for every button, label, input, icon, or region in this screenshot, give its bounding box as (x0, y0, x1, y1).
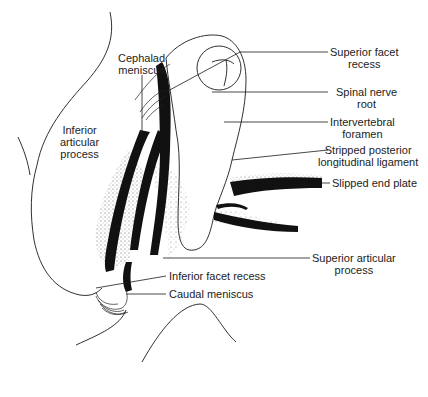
slipped-end-plate-bands (214, 177, 322, 232)
label-caudal-meniscus: Caudal meniscus (169, 288, 253, 300)
label-stripped-pll: Stripped posterior longitudinal ligament (318, 144, 418, 168)
label-superior-facet-recess: Superior facet recess (330, 46, 398, 70)
label-slipped-end-plate: Slipped end plate (332, 177, 417, 189)
label-spinal-nerve-root: Spinal nerve root (336, 86, 397, 110)
diagram-canvas: Cephalad meniscus Inferior articular pro… (0, 0, 428, 397)
label-inferior-facet-recess: Inferior facet recess (169, 270, 266, 282)
lower-outlines (76, 304, 236, 362)
label-superior-articular-process: Superior articular process (312, 252, 396, 276)
label-cephalad-meniscus: Cephalad meniscus (118, 52, 165, 76)
label-inferior-articular-process: Inferior articular process (60, 124, 99, 160)
spinal-nerve-root-shape (197, 46, 241, 90)
caudal-meniscus-fibers (96, 290, 128, 315)
label-intervertebral-foramen: Intervertebral foramen (330, 116, 395, 140)
